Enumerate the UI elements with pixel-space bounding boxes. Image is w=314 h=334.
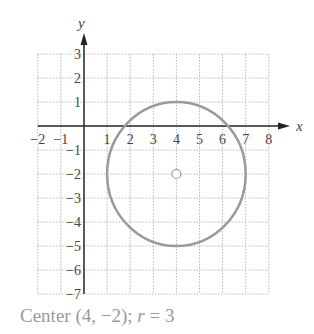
y-tick-label: 2	[74, 71, 81, 86]
x-tick-label: 5	[196, 132, 203, 147]
y-tick-label: −7	[66, 287, 81, 300]
x-tick-label: 6	[219, 132, 226, 147]
y-tick-label: −6	[66, 263, 81, 278]
y-tick-label: 1	[74, 95, 81, 110]
y-tick-label: −4	[66, 215, 81, 230]
x-tick-label: 2	[127, 132, 134, 147]
y-tick-label: −3	[66, 191, 81, 206]
center-point-marker	[172, 170, 181, 179]
x-tick-label: 4	[173, 132, 180, 147]
y-tick-label: −1	[66, 143, 81, 158]
y-tick-label: −2	[66, 167, 81, 182]
y-axis-label: y	[76, 15, 85, 31]
x-tick-label: 3	[150, 132, 157, 147]
x-axis-label: x	[295, 118, 303, 134]
caption-r-variable: r	[137, 305, 144, 326]
x-tick-label: 1	[104, 132, 111, 147]
x-tick-label: 7	[242, 132, 249, 147]
caption-prefix: Center (4, −2);	[20, 305, 137, 326]
x-axis-arrow-icon	[278, 123, 290, 130]
y-tick-label: 3	[74, 47, 81, 62]
y-axis-arrow-icon	[81, 33, 88, 45]
x-tick-label: 8	[265, 132, 272, 147]
caption-suffix: = 3	[145, 305, 175, 326]
y-tick-label: −5	[66, 239, 81, 254]
circle-graph: xy−2−112345678321−1−2−3−4−5−6−7	[0, 0, 314, 300]
graph-caption: Center (4, −2); r = 3	[20, 305, 174, 327]
x-tick-label: −2	[30, 132, 45, 147]
